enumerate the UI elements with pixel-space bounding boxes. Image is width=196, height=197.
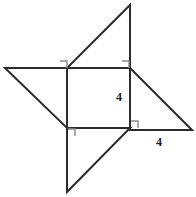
left-triangle — [5, 68, 67, 128]
geometry-figure-container: 4 4 — [0, 0, 196, 197]
right-angle-marker-bottom-left — [68, 129, 75, 136]
side-length-label-horizontal: 4 — [156, 135, 162, 149]
pinwheel-figure: 4 4 — [0, 0, 196, 197]
right-angle-marker-top-left — [60, 61, 67, 68]
right-angle-marker-top-right — [122, 61, 129, 68]
right-triangle — [130, 68, 192, 130]
top-triangle — [67, 5, 130, 68]
side-length-label-vertical: 4 — [116, 90, 122, 104]
right-angle-marker-bottom-right — [131, 121, 138, 128]
bottom-triangle — [67, 128, 130, 192]
